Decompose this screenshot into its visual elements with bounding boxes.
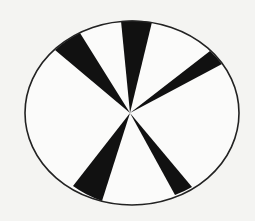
ellipse-wedge-diagram [0,0,255,221]
diagram-canvas [0,0,255,221]
